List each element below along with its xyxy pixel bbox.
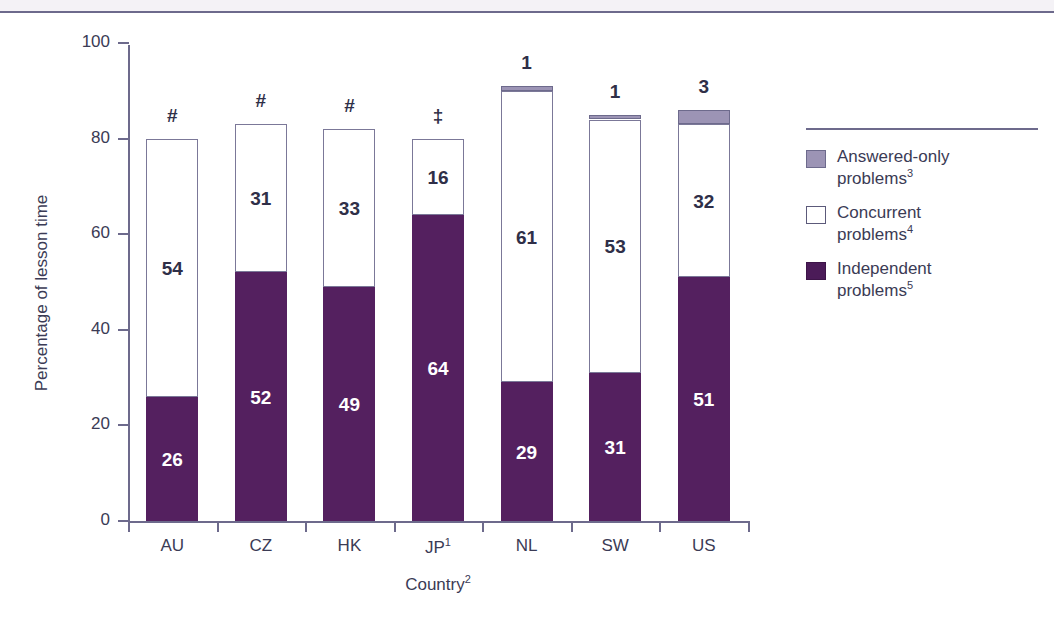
y-axis-tick-label: 40 <box>50 319 110 339</box>
bar-segment-value-label: 53 <box>589 237 641 256</box>
chart-plot-area: 020406080100 Percentage of lesson time 2… <box>0 0 780 625</box>
y-axis-tick-label: 80 <box>50 128 110 148</box>
bar-top-marker: 3 <box>678 77 730 96</box>
y-axis-tick <box>118 138 129 140</box>
bar-segment-answered[interactable] <box>589 115 641 120</box>
x-axis-label-au: AU <box>128 536 217 556</box>
y-axis-title: Percentage of lesson time <box>32 133 52 453</box>
legend-top-rule <box>806 128 1038 130</box>
bar-segment-value-label: 31 <box>589 438 641 457</box>
bar-top-marker: 1 <box>501 53 553 72</box>
x-axis-title: Country2 <box>128 573 748 595</box>
y-axis-tick <box>118 233 129 235</box>
legend-swatch-concurrent-icon <box>806 206 826 224</box>
bar-top-marker: # <box>235 91 287 110</box>
legend-label: Answered-onlyproblems3 <box>837 147 949 189</box>
y-axis-tick <box>118 424 129 426</box>
y-axis-tick <box>118 42 129 44</box>
y-axis-tick-label: 20 <box>50 414 110 434</box>
chart-legend: Answered-onlyproblems3Concurrentproblems… <box>806 128 1046 314</box>
bar-segment-value-label: 52 <box>235 388 287 407</box>
bar-top-marker: 1 <box>589 82 641 101</box>
bar-segment-value-label: 33 <box>323 199 375 218</box>
legend-item-concurrent[interactable]: Concurrentproblems4 <box>806 203 1046 245</box>
bar-segment-value-label: 31 <box>235 189 287 208</box>
x-axis-label-jp: JP1 <box>394 536 483 558</box>
x-axis-tick <box>305 521 307 532</box>
bar-segment-value-label: 26 <box>146 450 198 469</box>
x-axis-tick <box>128 521 130 532</box>
legend-items: Answered-onlyproblems3Concurrentproblems… <box>806 147 1046 300</box>
bar-segment-value-label: 54 <box>146 259 198 278</box>
x-axis-label-us: US <box>659 536 748 556</box>
x-axis-label-cz: CZ <box>217 536 306 556</box>
x-axis-tick <box>217 521 219 532</box>
bar-segment-value-label: 16 <box>412 168 464 187</box>
bar-segment-value-label: 49 <box>323 395 375 414</box>
legend-swatch-independent-icon <box>806 262 826 280</box>
x-axis-tick <box>748 521 750 532</box>
x-axis-label-nl: NL <box>482 536 571 556</box>
bar-segment-value-label: 32 <box>678 192 730 211</box>
legend-label: Concurrentproblems4 <box>837 203 921 245</box>
y-axis-tick-label: 0 <box>50 510 110 530</box>
legend-label: Independentproblems5 <box>837 259 932 301</box>
legend-item-independent[interactable]: Independentproblems5 <box>806 259 1046 301</box>
legend-item-answered[interactable]: Answered-onlyproblems3 <box>806 147 1046 189</box>
y-axis-tick <box>118 329 129 331</box>
bar-segment-answered[interactable] <box>501 86 553 91</box>
bar-segment-value-label: 64 <box>412 359 464 378</box>
bar-top-marker: ‡ <box>412 106 464 125</box>
x-axis-label-sw: SW <box>571 536 660 556</box>
bar-segment-value-label: 29 <box>501 443 553 462</box>
x-axis-line <box>128 521 748 523</box>
x-axis-tick <box>394 521 396 532</box>
legend-swatch-answered-icon <box>806 150 826 168</box>
y-axis-tick-label: 100 <box>50 32 110 52</box>
y-axis-tick-label: 60 <box>50 223 110 243</box>
x-axis-tick <box>659 521 661 532</box>
x-axis-tick <box>482 521 484 532</box>
bar-segment-answered[interactable] <box>678 110 730 124</box>
y-axis-line <box>128 45 130 523</box>
x-axis-label-hk: HK <box>305 536 394 556</box>
bar-segment-value-label: 51 <box>678 390 730 409</box>
bar-segment-value-label: 61 <box>501 228 553 247</box>
x-axis-tick <box>571 521 573 532</box>
bar-top-marker: # <box>146 106 198 125</box>
bar-top-marker: # <box>323 96 375 115</box>
